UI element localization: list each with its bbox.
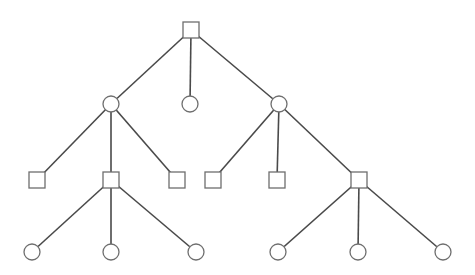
edge-s2-l3 <box>111 180 196 252</box>
edge-root-c3 <box>191 30 279 104</box>
circle-node-c3 <box>271 96 287 112</box>
edge-s6-l5 <box>358 180 359 252</box>
circle-node-l1 <box>24 244 40 260</box>
square-node-s4 <box>205 172 221 188</box>
tree-nodes <box>24 22 451 260</box>
circle-node-l4 <box>270 244 286 260</box>
square-node-root <box>183 22 199 38</box>
edge-s2-l1 <box>32 180 111 252</box>
edge-c1-s1 <box>37 104 111 180</box>
edge-s6-l6 <box>359 180 443 252</box>
circle-node-c1 <box>103 96 119 112</box>
edge-c3-s4 <box>213 104 279 180</box>
circle-node-l2 <box>103 244 119 260</box>
circle-node-l5 <box>350 244 366 260</box>
edge-c1-s3 <box>111 104 177 180</box>
circle-node-l3 <box>188 244 204 260</box>
edge-c3-s5 <box>277 104 279 180</box>
square-node-s2 <box>103 172 119 188</box>
tree-diagram <box>0 0 475 275</box>
circle-node-l6 <box>435 244 451 260</box>
tree-edges <box>32 30 443 252</box>
square-node-s1 <box>29 172 45 188</box>
edge-root-c1 <box>111 30 191 104</box>
edge-s6-l4 <box>278 180 359 252</box>
circle-node-c2 <box>182 96 198 112</box>
square-node-s6 <box>351 172 367 188</box>
square-node-s3 <box>169 172 185 188</box>
edge-root-c2 <box>190 30 191 104</box>
square-node-s5 <box>269 172 285 188</box>
edge-c3-s6 <box>279 104 359 180</box>
